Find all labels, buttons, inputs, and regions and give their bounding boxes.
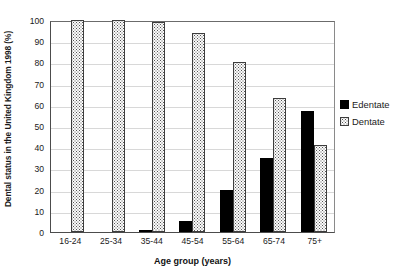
bar-group (294, 22, 334, 232)
y-tick-label: 70 (34, 80, 44, 90)
bar-dentate-25-34 (112, 20, 125, 232)
x-tick-label: 45-54 (172, 236, 213, 250)
bar-edentate-35-44 (139, 230, 152, 232)
bar-group (91, 22, 131, 232)
y-tick-label: 90 (34, 37, 44, 47)
legend-swatch-dentate-icon (340, 117, 349, 126)
bar-group (213, 22, 253, 232)
y-tick-label: 20 (34, 186, 44, 196)
y-tick-label: 50 (34, 122, 44, 132)
bar-edentate-55-64 (220, 190, 233, 232)
dental-status-bar-chart: Dental status in the United Kingdom 1998… (0, 0, 413, 277)
y-tick-label: 60 (34, 101, 44, 111)
y-tick-label: 80 (34, 58, 44, 68)
legend-label-dentate: Dentate (352, 116, 385, 127)
bar-group (172, 22, 212, 232)
bar-dentate-35-44 (152, 22, 165, 232)
x-tick-label: 55-64 (213, 236, 254, 250)
bar-edentate-65-74 (260, 158, 273, 232)
y-tick-label: 100 (30, 16, 44, 26)
legend-item-dentate: Dentate (340, 115, 412, 127)
x-tick-label: 75+ (294, 236, 335, 250)
bar-edentate-75plus (301, 111, 314, 232)
x-tick-label: 65-74 (254, 236, 295, 250)
bar-dentate-55-64 (233, 62, 246, 232)
chart-legend: Edentate Dentate (340, 98, 412, 132)
bars-layer (51, 22, 334, 232)
bar-group (51, 22, 91, 232)
y-tick-label: 40 (34, 143, 44, 153)
y-tick-label: 10 (34, 207, 44, 217)
y-tick-label: 0 (39, 228, 44, 238)
bar-group (253, 22, 293, 232)
bar-dentate-45-54 (192, 33, 205, 232)
bar-edentate-45-54 (179, 221, 192, 232)
bar-dentate-75plus (314, 145, 327, 232)
legend-item-edentate: Edentate (340, 98, 412, 110)
bar-dentate-65-74 (273, 98, 286, 232)
bar-dentate-16-24 (71, 20, 84, 232)
y-axis-title: Dental status in the United Kingdom 1998… (0, 0, 16, 238)
bar-group (132, 22, 172, 232)
x-tick-label: 16-24 (50, 236, 91, 250)
y-axis-title-label: Dental status in the United Kingdom 1998… (3, 31, 13, 207)
x-tick-label: 35-44 (131, 236, 172, 250)
x-axis-tick-labels: 16-2425-3435-4445-5455-6465-7475+ (50, 236, 335, 250)
y-tick-label: 30 (34, 164, 44, 174)
y-axis-tick-labels: 1009080706050403020100 (17, 15, 47, 239)
x-tick-label: 25-34 (91, 236, 132, 250)
plot-area (50, 21, 335, 233)
legend-swatch-edentate-icon (340, 100, 349, 109)
legend-label-edentate: Edentate (352, 99, 390, 110)
x-axis-title: Age group (years) (50, 256, 335, 266)
